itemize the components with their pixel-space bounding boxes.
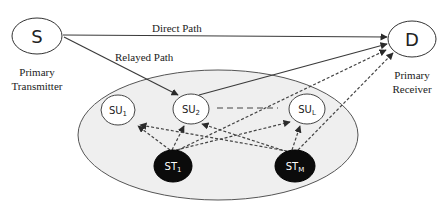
relayed-path-label: Relayed Path xyxy=(115,51,174,63)
secondary-user-1-node: SU1 xyxy=(101,95,135,125)
primary-transmitter-node: S xyxy=(12,18,62,54)
secondary-user-l-node: SUL xyxy=(289,94,325,124)
secondary-transmitter-m-node: STM xyxy=(275,150,315,182)
secondary-transmitter-1-node: ST1 xyxy=(154,150,192,182)
svg-text:S: S xyxy=(31,26,42,47)
primary-receiver-node: D xyxy=(388,21,436,57)
relayed-path-arrow xyxy=(64,37,178,95)
direct-path-arrow xyxy=(63,35,387,37)
svg-text:D: D xyxy=(405,29,419,50)
primary-transmitter-caption-2: Transmitter xyxy=(12,80,63,92)
primary-transmitter-caption-1: Primary xyxy=(19,66,55,78)
primary-receiver-caption-2: Receiver xyxy=(392,83,431,95)
secondary-user-2-node: SU2 xyxy=(173,94,209,124)
direct-path-label: Direct Path xyxy=(152,22,202,34)
primary-receiver-caption-1: Primary xyxy=(394,69,430,81)
network-diagram: S Primary Transmitter D Primary Receiver… xyxy=(0,0,448,210)
